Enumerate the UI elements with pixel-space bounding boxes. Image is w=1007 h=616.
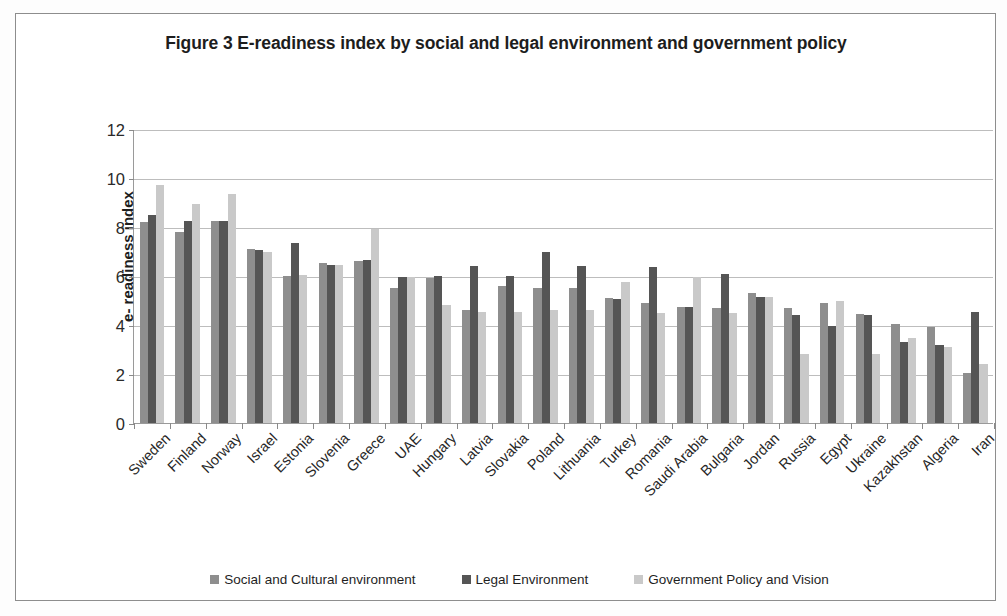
- bar: [550, 310, 558, 423]
- bar: [533, 288, 541, 423]
- x-axis-ticks: [134, 423, 993, 429]
- bar-group: [528, 130, 564, 423]
- bar: [327, 265, 335, 423]
- bar-group: [385, 130, 421, 423]
- bar: [820, 303, 828, 423]
- bar-group: [170, 130, 206, 423]
- bar: [935, 345, 943, 423]
- bar: [228, 194, 236, 423]
- bar: [729, 313, 737, 423]
- bar: [605, 298, 613, 423]
- bar: [963, 373, 971, 423]
- bar: [434, 276, 442, 423]
- chart-legend: Social and Cultural environmentLegal Env…: [16, 572, 1007, 587]
- bar: [577, 266, 585, 423]
- x-tick-mark: [636, 423, 637, 429]
- bar: [649, 267, 657, 423]
- bar-group: [707, 130, 743, 423]
- bar-group: [778, 130, 814, 423]
- bar: [828, 326, 836, 423]
- bar: [927, 327, 935, 423]
- x-axis-label: Algeria: [918, 430, 961, 473]
- legend-swatch-icon: [210, 575, 219, 584]
- y-tick-label: 12: [107, 121, 125, 140]
- bar: [641, 303, 649, 423]
- bar: [140, 222, 148, 423]
- bar: [371, 229, 379, 423]
- y-tick-label: 4: [116, 317, 125, 336]
- x-axis-label: Jordan: [739, 430, 782, 473]
- bar-group: [599, 130, 635, 423]
- bar: [836, 301, 844, 424]
- bar: [891, 324, 899, 423]
- bar: [979, 364, 987, 423]
- bar: [685, 307, 693, 423]
- legend-item[interactable]: Social and Cultural environment: [210, 572, 415, 587]
- bar-group: [814, 130, 850, 423]
- bar: [498, 286, 506, 423]
- legend-swatch-icon: [634, 575, 643, 584]
- bar: [621, 282, 629, 423]
- y-tick-label: 10: [107, 170, 125, 189]
- bar: [156, 185, 164, 423]
- bar: [319, 263, 327, 423]
- bar-group: [492, 130, 528, 423]
- bar: [442, 305, 450, 423]
- x-axis-label: Sweden: [125, 430, 173, 478]
- bar: [712, 308, 720, 423]
- bar-group: [420, 130, 456, 423]
- bar: [784, 308, 792, 423]
- bar: [657, 313, 665, 423]
- bar-group: [277, 130, 313, 423]
- bar-group: [635, 130, 671, 423]
- bar: [462, 310, 470, 423]
- bar: [255, 250, 263, 423]
- x-tick-mark: [958, 423, 959, 429]
- x-tick-mark: [349, 423, 350, 429]
- bar-group: [134, 130, 170, 423]
- bar-group: [886, 130, 922, 423]
- x-axis-labels: SwedenFinlandNorwayIsraelEstoniaSlovenia…: [133, 430, 993, 530]
- x-tick-mark: [600, 423, 601, 429]
- bar: [478, 312, 486, 423]
- x-tick-mark: [492, 423, 493, 429]
- x-tick-mark: [815, 423, 816, 429]
- bar-group: [564, 130, 600, 423]
- bar: [542, 252, 550, 424]
- x-tick-mark: [277, 423, 278, 429]
- bar-group: [850, 130, 886, 423]
- bar: [398, 277, 406, 423]
- bar: [426, 278, 434, 423]
- legend-label: Legal Environment: [476, 572, 589, 587]
- bar: [613, 299, 621, 423]
- legend-item[interactable]: Legal Environment: [462, 572, 589, 587]
- plot-area: e- readiness index 024681012: [133, 130, 993, 424]
- y-tick-label: 6: [116, 268, 125, 287]
- x-tick-mark: [170, 423, 171, 429]
- bar: [748, 293, 756, 423]
- x-tick-mark: [385, 423, 386, 429]
- bar: [569, 288, 577, 423]
- y-tick-label: 8: [116, 219, 125, 238]
- bar: [390, 288, 398, 423]
- bar-group: [241, 130, 277, 423]
- x-tick-mark: [707, 423, 708, 429]
- bar: [192, 204, 200, 423]
- x-tick-mark: [242, 423, 243, 429]
- bar-group: [957, 130, 993, 423]
- chart-frame: Figure 3 E-readiness index by social and…: [15, 13, 996, 601]
- bar: [506, 276, 514, 423]
- x-tick-mark: [206, 423, 207, 429]
- legend-item[interactable]: Government Policy and Vision: [634, 572, 829, 587]
- bar: [299, 275, 307, 423]
- bar: [677, 307, 685, 423]
- x-tick-mark: [887, 423, 888, 429]
- bar: [470, 266, 478, 423]
- x-tick-mark: [134, 423, 135, 429]
- bar-group: [743, 130, 779, 423]
- chart-title: Figure 3 E-readiness index by social and…: [106, 32, 906, 56]
- x-tick-mark: [672, 423, 673, 429]
- legend-label: Government Policy and Vision: [648, 572, 829, 587]
- y-tick-label: 0: [116, 415, 125, 434]
- bar: [335, 265, 343, 423]
